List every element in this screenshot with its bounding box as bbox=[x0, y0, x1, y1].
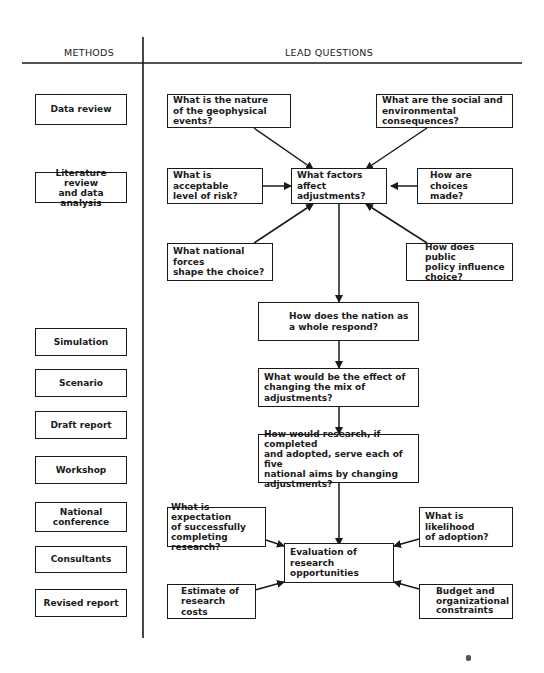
question-acceptable-risk: What is acceptable level of risk? bbox=[167, 168, 263, 204]
question-likelihood-adoption: What is likelihood of adoption? bbox=[419, 507, 513, 547]
lead-questions-header: LEAD QUESTIONS bbox=[285, 47, 373, 58]
question-expectation-completing: What is expectation of successfully comp… bbox=[167, 507, 266, 547]
method-consultants: Consultants bbox=[35, 546, 127, 573]
question-factors-adjustments: What factors affect adjustments? bbox=[291, 168, 387, 204]
question-choices-made: How are choices made? bbox=[417, 168, 513, 204]
scan-speck-mark bbox=[466, 655, 471, 661]
method-scenario: Scenario bbox=[35, 369, 127, 397]
question-national-forces: What national forces shape the choice? bbox=[167, 243, 273, 281]
method-revised-report: Revised report bbox=[35, 589, 127, 617]
method-workshop: Workshop bbox=[35, 456, 127, 484]
method-data-review: Data review bbox=[35, 94, 127, 125]
question-social-environmental: What are the social and environmental co… bbox=[376, 94, 513, 128]
estimate-research-costs: Estimate of research costs bbox=[167, 584, 256, 619]
method-national-conference: National conference bbox=[35, 502, 127, 532]
question-nation-respond: How does the nation as a whole respond? bbox=[258, 302, 419, 341]
question-geophysical-events: What is the nature of the geophysical ev… bbox=[167, 94, 291, 128]
question-public-policy: How does public policy influence choice? bbox=[406, 243, 513, 281]
evaluation-research-opportunities: Evaluation of research opportunities bbox=[284, 543, 394, 583]
method-literature-review: Literature review and data analysis bbox=[35, 172, 127, 203]
budget-organizational-constraints: Budget and organizational constraints bbox=[419, 584, 513, 619]
question-research-national-aims: How would research, if completed and ado… bbox=[258, 434, 419, 483]
methods-header: METHODS bbox=[64, 47, 114, 58]
method-draft-report: Draft report bbox=[35, 411, 127, 439]
question-mix-effect: What would be the effect of changing the… bbox=[258, 368, 419, 407]
method-simulation: Simulation bbox=[35, 328, 127, 356]
